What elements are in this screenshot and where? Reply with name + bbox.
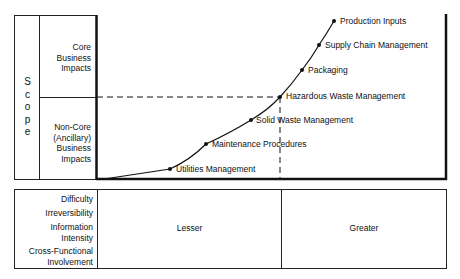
criterion-irreversibility: Irreversibility [45, 208, 93, 219]
curve-point-marker [300, 68, 304, 72]
point-label-hazardous-waste-management: Hazardous Waste Management [286, 91, 405, 101]
curve-point-marker [168, 167, 172, 171]
lesser-label: Lesser [98, 223, 281, 233]
point-label-solid-waste-management: Solid Waste Management [256, 115, 353, 125]
point-label-maintenance-procedures: Maintenance Procedures [212, 139, 307, 149]
greater-label: Greater [282, 223, 446, 233]
point-label-production-inputs: Production Inputs [340, 16, 406, 26]
criterion-line: Information [50, 222, 93, 233]
criterion-information-intensity: Information Intensity [50, 222, 93, 243]
criteria-table: Difficulty Irreversibility Information I… [14, 189, 447, 269]
criterion-line: Cross-Functional [29, 246, 93, 257]
curve-point-marker [332, 19, 336, 23]
curve-point-marker [317, 43, 321, 47]
criterion-line: Involvement [29, 257, 93, 268]
criterion-line: Intensity [50, 233, 93, 244]
criterion-difficulty: Difficulty [61, 194, 93, 205]
criterion-cross-functional-involvement: Cross-Functional Involvement [29, 246, 93, 267]
point-label-utilities-management: Utilities Management [176, 164, 255, 174]
curve-point-marker [204, 142, 208, 146]
criteria-labels: Difficulty Irreversibility Information I… [15, 190, 93, 268]
criterion-line: Irreversibility [45, 208, 93, 219]
curve-point-marker [249, 118, 253, 122]
point-label-packaging: Packaging [308, 65, 348, 75]
curve-point-marker [278, 95, 282, 99]
point-label-supply-chain-management: Supply Chain Management [325, 40, 428, 50]
criterion-line: Difficulty [61, 194, 93, 205]
